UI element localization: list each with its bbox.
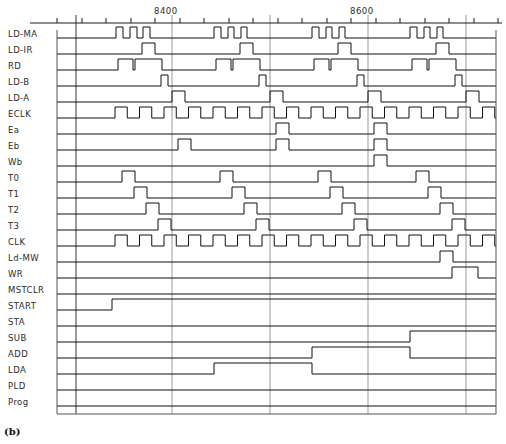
waveform-t2 xyxy=(57,203,496,214)
signal-label-start: START xyxy=(8,301,36,311)
signal-label-clk: CLK xyxy=(8,237,25,247)
signal-label-sub: SUB xyxy=(8,333,27,343)
waveform-t1 xyxy=(57,187,496,198)
signal-label-t2: T2 xyxy=(8,205,19,215)
signal-label-rd: RD xyxy=(8,61,21,71)
signal-label-mstclr: MSTCLR xyxy=(8,285,44,295)
waveform-wb xyxy=(57,155,496,166)
signal-label-pld: PLD xyxy=(8,381,26,391)
signal-label-wb: Wb xyxy=(8,157,23,167)
waveform-sub xyxy=(57,331,496,342)
waveform-canvas xyxy=(0,0,506,444)
signal-label-sta: STA xyxy=(8,317,25,327)
waveform-ea xyxy=(57,123,496,134)
timing-diagram: 84008600LD-MALD-IRRDLD-BLD-AECLKEaEbWbT0… xyxy=(0,0,506,444)
signal-label-eclk: ECLK xyxy=(8,109,31,119)
signal-label-eb: Eb xyxy=(8,141,20,151)
signal-label-t1: T1 xyxy=(8,189,19,199)
signal-label-lda: LDA xyxy=(8,365,26,375)
waveform-ld-mw xyxy=(57,251,496,262)
signal-label-ld-ir: LD-IR xyxy=(8,45,33,55)
signal-label-wr: WR xyxy=(8,269,23,279)
waveform-rd xyxy=(57,59,496,70)
waveform-start xyxy=(57,299,496,310)
waveform-add xyxy=(57,347,496,358)
signal-label-prog: Prog xyxy=(8,397,28,407)
waveform-eclk xyxy=(57,107,496,118)
waveform-t3 xyxy=(57,219,496,230)
waveform-eb xyxy=(57,139,496,150)
signal-label-add: ADD xyxy=(8,349,28,359)
waveform-ld-ir xyxy=(57,43,496,54)
signal-label-ld-b: LD-B xyxy=(8,77,29,87)
figure-caption: (b) xyxy=(4,426,20,437)
signal-label-ld-ma: LD-MA xyxy=(8,29,38,39)
waveform-ld-b xyxy=(57,75,496,86)
waveform-t0 xyxy=(57,171,496,182)
signal-label-ld-mw: Ld-MW xyxy=(8,253,39,263)
waveform-ld-a xyxy=(57,91,496,102)
signal-label-t3: T3 xyxy=(8,221,19,231)
axis-tick-label: 8400 xyxy=(154,6,178,16)
axis-tick-label: 8600 xyxy=(350,6,374,16)
waveform-wr xyxy=(57,267,496,278)
signal-label-t0: T0 xyxy=(8,173,19,183)
waveform-ld-ma xyxy=(57,27,496,38)
waveform-clk xyxy=(57,235,496,246)
signal-label-ea: Ea xyxy=(8,125,19,135)
waveform-lda xyxy=(57,363,496,374)
signal-label-ld-a: LD-A xyxy=(8,93,30,103)
